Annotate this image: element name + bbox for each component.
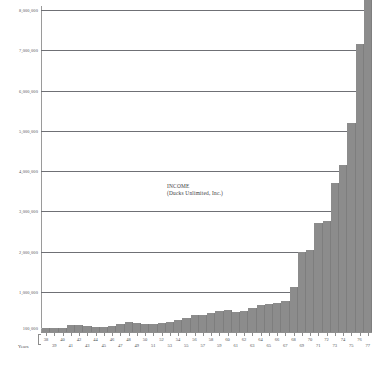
x-axis-tick: [368, 333, 369, 336]
x-axis-tick-label: 74: [341, 337, 346, 342]
bar: [356, 44, 364, 332]
x-axis-tick-label: 67: [283, 343, 288, 348]
x-axis-tick-label: 53: [168, 343, 173, 348]
plot-area: [41, 6, 372, 332]
income-bar-chart-figure: 8,000,0007,000,0006,000,0005,000,0004,00…: [0, 0, 373, 371]
y-axis-labels: 8,000,0007,000,0006,000,0005,000,0004,00…: [0, 0, 40, 340]
x-axis-tick-label: 71: [316, 343, 321, 348]
x-axis-tick-label: 42: [77, 337, 82, 342]
x-axis-tick-label: 59: [217, 343, 222, 348]
x-axis-tick-label: 45: [102, 343, 107, 348]
y-axis-tick-label: 1,000,000: [19, 289, 38, 294]
bar: [75, 325, 83, 332]
y-axis-tick-label: 5,000,000: [19, 128, 38, 133]
bar: [290, 287, 298, 332]
x-axis-tick-label: 77: [366, 343, 371, 348]
bar: [306, 250, 314, 332]
x-axis-tick: [54, 333, 55, 336]
bar: [149, 324, 157, 332]
bar: [265, 304, 273, 332]
bar: [339, 165, 347, 332]
x-axis-tick: [153, 333, 154, 336]
x-axis-tick-label: 50: [143, 337, 148, 342]
bar: [207, 313, 215, 332]
x-axis-tick-label: 64: [258, 337, 263, 342]
x-axis-tick-label: 47: [118, 343, 123, 348]
annotation-subtitle: (Ducks Unlimited, Inc.): [167, 190, 223, 197]
x-axis-tick-label: 65: [267, 343, 272, 348]
x-axis-tick: [219, 333, 220, 336]
bar: [347, 123, 355, 332]
y-axis-tick-label: 8,000,000: [19, 8, 38, 13]
bar: [240, 311, 248, 332]
bar: [182, 318, 190, 332]
x-axis-tick: [203, 333, 204, 336]
x-axis-tick-label: 58: [209, 337, 214, 342]
x-axis-tick-label: 73: [333, 343, 338, 348]
x-axis-tick-label: 55: [184, 343, 189, 348]
bar: [314, 223, 322, 332]
y-axis-tick-label: 4,000,000: [19, 169, 38, 174]
x-axis-tick: [87, 333, 88, 336]
bar: [116, 324, 124, 332]
bar: [273, 303, 281, 332]
x-axis-tick: [302, 333, 303, 336]
x-axis-tick-label: 69: [300, 343, 305, 348]
y-axis-tick-label: 7,000,000: [19, 48, 38, 53]
x-axis-tick-label: 70: [308, 337, 313, 342]
x-axis-tick-label: 68: [291, 337, 296, 342]
x-axis-tick: [71, 333, 72, 336]
x-axis-tick-label: 62: [242, 337, 247, 342]
x-axis-tick-label: 39: [52, 343, 57, 348]
x-axis-tick-label: 54: [176, 337, 181, 342]
x-axis-tick: [137, 333, 138, 336]
x-axis-tick: [236, 333, 237, 336]
x-axis-tick: [318, 333, 319, 336]
x-axis-tick-label: 57: [201, 343, 206, 348]
bar: [125, 322, 133, 332]
bar: [298, 252, 306, 332]
annotation-title: INCOME: [167, 183, 223, 190]
bar: [191, 315, 199, 332]
x-axis-tick: [170, 333, 171, 336]
y-axis-tick-label: 3,000,000: [19, 209, 38, 214]
y-axis-tick-label: 6,000,000: [19, 88, 38, 93]
bar: [331, 183, 339, 332]
bar: [232, 312, 240, 332]
bar: [199, 315, 207, 332]
x-axis-tick: [186, 333, 187, 336]
x-axis-tick: [335, 333, 336, 336]
x-axis-tick-label: 60: [225, 337, 230, 342]
bar: [257, 305, 265, 332]
x-axis-tick-label: 61: [234, 343, 239, 348]
x-axis-title: Years: [18, 344, 29, 349]
x-axis-tick: [351, 333, 352, 336]
x-axis-tick-label: 40: [60, 337, 65, 342]
x-axis-tick-label: 72: [324, 337, 329, 342]
x-axis-tick-label: 76: [357, 337, 362, 342]
x-axis-tick-label: 66: [275, 337, 280, 342]
x-axis-tick: [252, 333, 253, 336]
bar: [67, 325, 75, 332]
y-axis-tick-label: 2,000,000: [19, 249, 38, 254]
x-axis-tick-label: 52: [159, 337, 164, 342]
x-axis-tick-label: 49: [135, 343, 140, 348]
x-axis-tick-label: 51: [151, 343, 156, 348]
x-axis-tick-label: 38: [44, 337, 49, 342]
x-axis-ticks: 3839404142434445464748495051525354555657…: [41, 333, 372, 355]
bar: [158, 323, 166, 332]
x-axis-tick-label: 63: [250, 343, 255, 348]
x-axis-tick-label: 56: [192, 337, 197, 342]
x-axis-tick-label: 44: [93, 337, 98, 342]
bar: [166, 322, 174, 332]
bar: [323, 221, 331, 332]
x-axis-tick: [285, 333, 286, 336]
x-axis-tick: [120, 333, 121, 336]
bar: [215, 311, 223, 332]
y-axis-tick-label: 100,000: [23, 325, 38, 330]
bar-series-income: [42, 6, 372, 332]
x-axis-tick-label: 75: [349, 343, 354, 348]
x-axis-tick-label: 43: [85, 343, 90, 348]
bar: [248, 308, 256, 332]
x-axis-tick-label: 48: [126, 337, 131, 342]
